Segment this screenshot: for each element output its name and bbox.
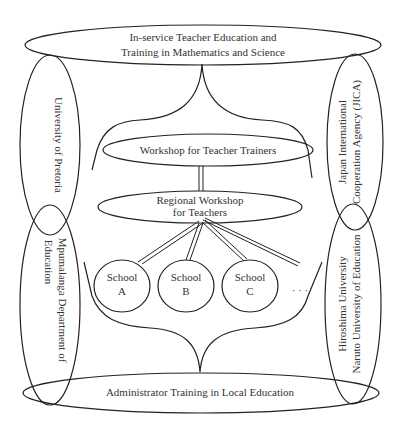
connector-trainers-to-regional: [199, 166, 203, 191]
top-program-line1: In-service Teacher Education and: [129, 31, 277, 43]
partner-mpumalanga-line2: Education: [43, 240, 55, 285]
school-a-node: School A: [94, 260, 150, 312]
top-program-node: In-service Teacher Education and Trainin…: [25, 25, 381, 65]
more-schools-ellipsis: · · ·: [292, 284, 309, 296]
partner-hiroshima-naruto: Hiroshima University Naruto University o…: [325, 204, 381, 404]
partner-mpumalanga-line1: Mpumalanga Department of: [57, 238, 69, 363]
top-brace: [92, 64, 312, 178]
workshop-teacher-trainers-label: Workshop for Teacher Trainers: [140, 144, 277, 156]
top-program-line2: Training in Mathematics and Science: [121, 46, 285, 58]
workshop-teacher-trainers-node: Workshop for Teacher Trainers: [103, 134, 313, 166]
school-a-line2: A: [118, 285, 126, 297]
regional-workshop-line1: Regional Workshop: [156, 194, 244, 206]
school-c-line2: C: [246, 285, 253, 297]
partner-jica-line2: Cooperation Agency (JICA): [350, 80, 363, 204]
partner-jica: Japan International Cooperation Agency (…: [327, 54, 383, 230]
partner-university-of-pretoria: University of Pretoria: [20, 55, 80, 235]
school-b-line2: B: [182, 285, 189, 297]
partner-jica-line1: Japan International: [336, 100, 348, 184]
school-c-line1: School: [235, 271, 266, 283]
school-a-line1: School: [107, 271, 138, 283]
bottom-program-label: Administrator Training in Local Educatio…: [106, 386, 295, 398]
school-c-node: School C: [222, 260, 278, 312]
school-b-line1: School: [171, 271, 202, 283]
regional-workshop-line2: for Teachers: [173, 206, 227, 218]
diagram-canvas: In-service Teacher Education and Trainin…: [0, 0, 405, 433]
partner-naruto-line2: Naruto University of Education: [350, 234, 362, 373]
partner-hiroshima-line1: Hiroshima University: [336, 256, 348, 352]
connectors-regional-to-schools: [138, 218, 300, 266]
school-b-node: School B: [158, 260, 214, 312]
partner-university-of-pretoria-label: University of Pretoria: [53, 97, 65, 193]
bottom-program-node: Administrator Training in Local Educatio…: [23, 373, 379, 413]
regional-workshop-node: Regional Workshop for Teachers: [98, 191, 302, 223]
